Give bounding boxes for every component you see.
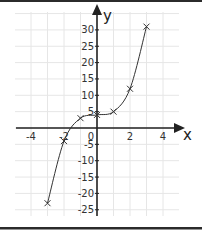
- y-tick-label: -10: [78, 155, 94, 166]
- y-tick-label: 25: [81, 41, 94, 52]
- top-border: [0, 0, 202, 2]
- x-tick-label: 2: [127, 131, 133, 142]
- y-tick-label: 20: [81, 57, 94, 68]
- cubic-graph: x y -4-2024 -25-20-15-10-551015202530: [0, 0, 202, 235]
- x-tick-label: -4: [26, 131, 36, 142]
- y-tick-label: 10: [81, 90, 94, 101]
- y-axis-arrow-icon: [92, 4, 102, 15]
- y-tick-label: -5: [84, 139, 94, 150]
- y-tick-label: 30: [81, 24, 94, 35]
- y-tick-label: 15: [81, 73, 94, 84]
- y-tick-label: -25: [78, 204, 94, 215]
- y-axis-label: y: [103, 7, 112, 25]
- x-axis-label: x: [183, 126, 192, 144]
- y-tick-label: -20: [78, 188, 94, 199]
- y-tick-label: -15: [78, 172, 94, 183]
- bottom-border: [0, 227, 202, 230]
- x-tick-label: 4: [160, 131, 166, 142]
